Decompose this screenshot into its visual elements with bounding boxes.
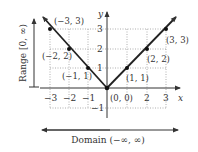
point-origin [105, 86, 110, 91]
x-tick-3: 3 [163, 93, 169, 103]
range-label: Range [0, ∞) [18, 24, 28, 82]
abs-value-graph: y x 3 2 1 −1 −3 −2 −1 2 3 (−3, 3) (−2, 2… [0, 0, 198, 152]
point-m1 [86, 66, 90, 70]
y-tick-1: 1 [97, 63, 103, 73]
point-label-2: (2, 2) [147, 54, 170, 64]
point-1 [125, 66, 129, 70]
y-tick-3: 3 [97, 24, 103, 34]
y-axis-label: y [97, 9, 104, 19]
x-tick-m1: −1 [82, 93, 95, 103]
point-label-m2: (−2, 2) [42, 51, 72, 61]
point-3 [164, 27, 168, 31]
point-label-m3: (−3, 3) [54, 16, 84, 26]
x-tick-m2: −2 [63, 93, 76, 103]
point-label-origin: (0, 0) [110, 93, 133, 103]
x-axis-label: x [178, 93, 183, 103]
point-2 [145, 47, 149, 51]
point-label-m1: (−1, 1) [62, 71, 92, 81]
x-tick-m3: −3 [44, 93, 58, 103]
point-label-1: (1, 1) [126, 73, 149, 83]
y-tick-2: 2 [97, 44, 103, 54]
point-label-3: (3, 3) [166, 35, 189, 45]
y-tick-m1: −1 [91, 103, 104, 113]
point-m3 [48, 27, 52, 31]
domain-label: Domain (−∞, ∞) [71, 135, 144, 145]
x-tick-2: 2 [144, 93, 150, 103]
range-indicator [29, 19, 39, 87]
